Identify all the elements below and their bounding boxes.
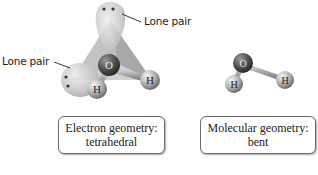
bent-model: O H H bbox=[225, 53, 294, 93]
electron-dot bbox=[111, 7, 114, 10]
hydrogen-symbol: H bbox=[230, 79, 237, 90]
lone-pair-label-top: Lone pair bbox=[144, 15, 191, 27]
electron-dot bbox=[64, 75, 67, 78]
oxygen-symbol: O bbox=[239, 58, 246, 69]
molecular-geometry-caption: Molecular geometry: bent bbox=[200, 116, 316, 154]
electron-geometry-caption: Electron geometry: tetrahedral bbox=[58, 116, 165, 154]
caption-line: Electron geometry: bbox=[59, 121, 164, 135]
electron-dot bbox=[66, 84, 69, 87]
leader-line-left bbox=[54, 62, 70, 68]
electron-dot bbox=[102, 7, 105, 10]
hydrogen-symbol: H bbox=[146, 74, 154, 86]
hydrogen-symbol: H bbox=[93, 83, 101, 95]
oxygen-symbol: O bbox=[105, 59, 113, 71]
lone-pair-label-left: Lone pair bbox=[2, 55, 49, 67]
caption-line: bent bbox=[201, 135, 315, 149]
hydrogen-symbol: H bbox=[281, 75, 288, 86]
caption-line: tetrahedral bbox=[59, 135, 164, 149]
caption-line: Molecular geometry: bbox=[201, 121, 315, 135]
